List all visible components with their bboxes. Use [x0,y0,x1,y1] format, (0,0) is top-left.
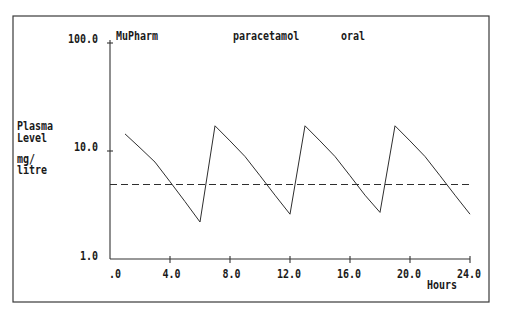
x-tick-label: 20.0 [397,267,421,281]
x-tick-label: 4.0 [162,267,180,281]
route-label: oral [341,29,365,43]
x-tick-label: 24.0 [457,267,481,281]
x-tick-label: 16.0 [337,267,361,281]
x-tick-label: 12.0 [277,267,301,281]
x-axis-title: Hours [427,278,457,292]
y-axis-title-line: litre [17,163,48,177]
y-axis-title-line: Level [17,131,47,145]
y-tick-label: 10.0 [74,140,98,154]
background [0,0,513,319]
plasma-level-chart: MuPharm paracetamol oral Plasma Level mg… [0,0,513,319]
x-tick-label: 8.0 [222,267,240,281]
drug-name: paracetamol [233,29,299,43]
y-tick-label: 100.0 [68,32,98,46]
program-name: MuPharm [116,29,159,43]
x-tick-label: .0 [109,267,121,281]
y-tick-label: 1.0 [80,249,98,263]
